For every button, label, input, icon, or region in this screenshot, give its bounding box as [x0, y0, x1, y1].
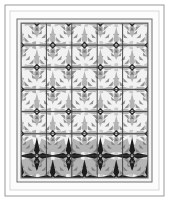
pattern-field: [2, 4, 166, 196]
quilt-artwork: [0, 0, 169, 201]
quilt-svg: [0, 0, 169, 201]
feathered-star-motifs: [2, 4, 166, 196]
